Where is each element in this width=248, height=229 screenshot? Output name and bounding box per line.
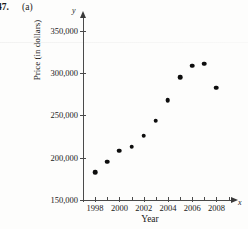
data-point xyxy=(190,63,195,68)
data-point xyxy=(178,75,183,80)
y-axis-tick-label-wrap: 200,000 xyxy=(34,158,78,168)
data-point xyxy=(117,149,122,154)
data-point xyxy=(166,98,171,103)
x-axis-tick xyxy=(192,197,193,202)
x-axis-tick-label: 2006 xyxy=(179,203,205,213)
data-point xyxy=(214,85,219,90)
x-axis-line xyxy=(83,200,234,201)
x-axis-tick xyxy=(119,197,120,202)
y-axis-tick xyxy=(80,200,86,201)
x-axis-minor-tick xyxy=(229,197,230,200)
x-axis-minor-tick xyxy=(132,197,133,200)
y-axis-tick-label-wrap: 150,000 xyxy=(34,200,78,210)
x-axis-tick-label: 2004 xyxy=(155,203,181,213)
data-point xyxy=(105,160,110,165)
x-axis-title: Year xyxy=(120,214,180,224)
y-axis-tick-label-wrap: 350,000 xyxy=(34,31,78,41)
x-axis-tick-label: 2008 xyxy=(203,203,229,213)
y-axis-tick xyxy=(80,158,86,159)
y-axis-tick-label: 200,000 xyxy=(34,153,78,163)
data-point xyxy=(141,133,146,138)
x-axis-minor-tick xyxy=(107,197,108,200)
y-axis-tick-label-wrap: 300,000 xyxy=(34,73,78,83)
y-axis-symbol: y xyxy=(72,6,76,15)
y-axis-tick xyxy=(80,115,86,116)
x-axis-tick xyxy=(95,197,96,202)
x-axis-minor-tick xyxy=(180,197,181,200)
part-label: (a) xyxy=(22,2,33,12)
x-axis-minor-tick xyxy=(156,197,157,200)
x-axis-tick-label: 2002 xyxy=(131,203,157,213)
y-axis-tick xyxy=(80,31,86,32)
x-axis-arrow-icon xyxy=(231,197,238,203)
y-axis-line xyxy=(83,18,84,202)
y-axis-tick xyxy=(80,73,86,74)
x-axis-tick xyxy=(168,197,169,202)
y-axis-tick-label: 250,000 xyxy=(34,110,78,120)
y-axis-arrow-icon xyxy=(80,11,86,18)
data-point xyxy=(93,170,98,175)
scatter-plot-figure: 47. (a) y x Price (in dollars) Year 150,… xyxy=(0,0,248,229)
y-axis-tick-label: 350,000 xyxy=(34,26,78,36)
y-axis-tick-label: 300,000 xyxy=(34,68,78,78)
y-axis-tick-label-wrap: 250,000 xyxy=(34,115,78,125)
data-point xyxy=(202,62,207,67)
x-axis-tick-label: 2000 xyxy=(106,203,132,213)
data-point xyxy=(154,118,159,123)
x-axis-minor-tick xyxy=(204,197,205,200)
x-axis-tick xyxy=(144,197,145,202)
x-axis-tick xyxy=(216,197,217,202)
y-axis-tick-label: 150,000 xyxy=(34,195,78,205)
data-point xyxy=(129,144,134,149)
problem-number: 47. xyxy=(0,2,9,12)
y-axis-title: Price (in dollars) xyxy=(32,0,42,115)
x-axis-symbol: x xyxy=(238,198,242,207)
x-axis-tick-label: 1998 xyxy=(82,203,108,213)
